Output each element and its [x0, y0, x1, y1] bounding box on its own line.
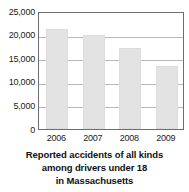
y-tick-label: 5,000 [0, 102, 35, 111]
bar-2009 [156, 66, 178, 129]
caption-line: Reported accidents of all kinds [0, 148, 189, 161]
x-tick-label: 2006 [38, 133, 75, 143]
bar-2008 [119, 48, 141, 129]
chart-figure: 25,000 20,000 15,000 10,000 5,000 0 2006… [0, 0, 189, 192]
y-tick-label: 15,000 [0, 55, 35, 64]
y-tick-label: 0 [0, 126, 35, 135]
chart-caption: Reported accidents of all kinds among dr… [0, 148, 189, 187]
x-axis: 2006 2007 2008 2009 [38, 133, 184, 147]
y-tick-label: 25,000 [0, 8, 35, 17]
y-tick-label: 20,000 [0, 31, 35, 40]
bar-2006 [46, 29, 68, 129]
x-tick-label: 2008 [111, 133, 148, 143]
bar-2007 [83, 35, 105, 129]
bar-chart: 25,000 20,000 15,000 10,000 5,000 0 2006… [0, 0, 189, 148]
y-axis: 25,000 20,000 15,000 10,000 5,000 0 [0, 0, 37, 148]
y-tick-label: 10,000 [0, 78, 35, 87]
caption-line: in Massachusetts [0, 174, 189, 187]
plot-area [38, 12, 184, 130]
caption-line: among drivers under 18 [0, 161, 189, 174]
x-tick-label: 2009 [148, 133, 185, 143]
x-tick-label: 2007 [75, 133, 112, 143]
